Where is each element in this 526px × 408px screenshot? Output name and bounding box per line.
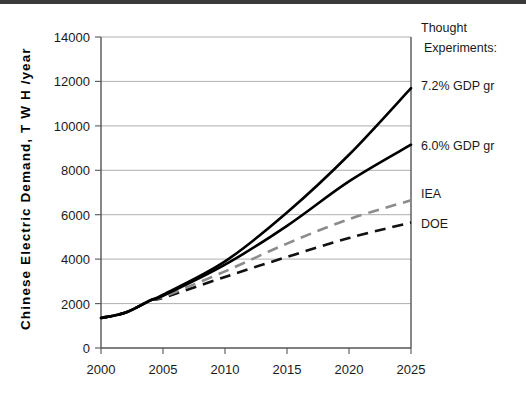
ytick-label-6000: 6000 [61, 208, 90, 223]
series-line-7-2-gdp [101, 88, 411, 318]
series-label-iea: IEA [421, 187, 442, 201]
xtick-label-2000: 2000 [87, 362, 116, 377]
ytick-label-8000: 8000 [61, 163, 90, 178]
x-tick-labels: 2000 2005 2010 2015 2020 2025 [87, 362, 426, 377]
annotations-group: Thought Experiments: 7.2% GDP gr 6.0% GD… [421, 21, 497, 231]
xtick-label-2025: 2025 [397, 362, 426, 377]
series-label-7-2-gdp: 7.2% GDP gr [421, 79, 494, 93]
thought-experiments-heading-line2: Experiments: [424, 41, 497, 55]
y-axis-title: Chinese Electric Demand, T W H /year [18, 47, 33, 330]
xtick-label-2015: 2015 [273, 362, 302, 377]
y-tick-labels: 14000 12000 10000 8000 6000 4000 2000 0 [54, 30, 90, 356]
thought-experiments-heading-line1: Thought [421, 21, 467, 35]
ytick-label-4000: 4000 [61, 252, 90, 267]
series-label-6-0-gdp: 6.0% GDP gr [421, 139, 494, 153]
ytick-label-12000: 12000 [54, 74, 90, 89]
chart-figure: 14000 12000 10000 8000 6000 4000 2000 0 … [0, 0, 526, 408]
ytick-label-10000: 10000 [54, 119, 90, 134]
xtick-label-2005: 2005 [149, 362, 178, 377]
x-tick-marks [101, 348, 411, 354]
ytick-label-14000: 14000 [54, 30, 90, 45]
series-label-doe: DOE [421, 217, 448, 231]
series-group [101, 88, 411, 318]
xtick-label-2020: 2020 [335, 362, 364, 377]
y-tick-marks [95, 37, 101, 348]
xtick-label-2010: 2010 [211, 362, 240, 377]
ytick-label-0: 0 [83, 341, 90, 356]
ytick-label-2000: 2000 [61, 297, 90, 312]
line-chart: 14000 12000 10000 8000 6000 4000 2000 0 … [0, 0, 526, 408]
series-line-6-0-gdp [101, 145, 411, 318]
